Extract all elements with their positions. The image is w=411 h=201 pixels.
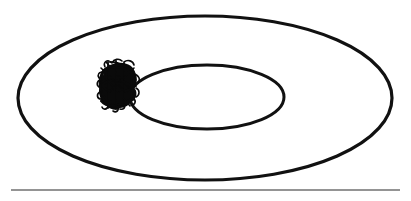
annulus-diagram: [0, 0, 411, 201]
paper-background: [0, 0, 411, 201]
figure-canvas: [0, 0, 411, 201]
